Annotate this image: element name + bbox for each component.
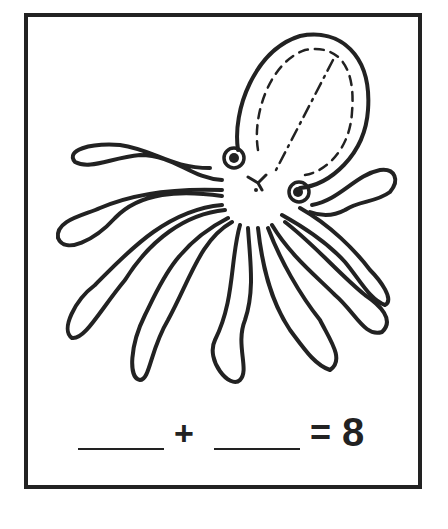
sum-value: 8	[342, 410, 364, 455]
plus-sign: +	[174, 414, 194, 453]
addend-1-blank[interactable]	[78, 448, 164, 450]
addend-2-blank[interactable]	[214, 448, 300, 450]
octopus-head	[237, 35, 368, 188]
addition-equation: + = 8	[74, 410, 394, 460]
equals-sign: =	[310, 412, 331, 454]
